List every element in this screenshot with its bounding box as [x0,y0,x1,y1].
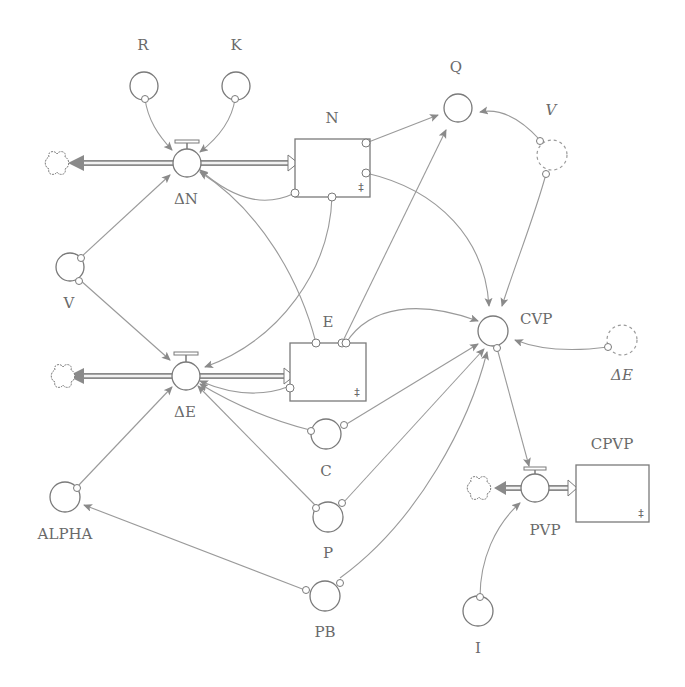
converter-v[interactable]: V [56,253,85,312]
stock-n-label: N [325,109,338,127]
converter-v-label: V [63,294,76,312]
converter-cvp[interactable]: CVP [478,310,552,352]
stock-e-label: E [323,313,334,331]
converter-pb[interactable]: PB [303,580,344,642]
link-pb-alpha [84,505,305,590]
flow-dn-label: ΔN [174,190,198,208]
converter-r[interactable]: R [130,36,158,103]
converter-cvp-label: CVP [520,310,552,328]
flow-de[interactable]: ΔE [172,352,200,421]
ghost-v[interactable]: V [537,101,568,178]
stock-flow-diagram: N ‡ E ‡ CPVP ‡ ΔN ΔE PVP [0,0,685,687]
flow-pvp[interactable]: PVP [521,467,561,539]
link-vghost-cvp [502,174,546,306]
converter-r-label: R [137,36,149,54]
cloud-icon [45,152,69,175]
link-r-dn [145,99,172,150]
stock-n[interactable]: N ‡ [291,109,370,201]
link-alpha-de [77,387,172,487]
ghost-v-label: V [546,101,559,119]
ghost-de[interactable]: ΔE [605,325,638,384]
stock-symbol-icon: ‡ [354,386,360,399]
link-v-dn [80,175,170,258]
link-cvp-pvp [497,348,529,466]
converter-p-label: P [323,544,333,562]
link-n-q [366,115,438,143]
valve-handle-icon [175,140,199,143]
converter-p[interactable]: P [313,500,346,563]
stock-cpvp-label: CPVP [591,435,634,453]
stock-symbol-icon: ‡ [358,181,364,194]
link-p-de [198,386,315,505]
stock-symbol-icon: ‡ [638,507,644,520]
converter-c-label: C [320,462,331,480]
converter-c[interactable]: C [308,419,348,480]
link-i-pvp [480,503,520,597]
link-dEghost-cvp [515,340,608,350]
flow-out-arrowhead [68,155,84,171]
valve-handle-icon [174,352,198,355]
converter-q[interactable]: Q [444,58,472,122]
valve-handle-icon [524,467,546,470]
link-e-cvp [346,309,478,343]
link-vghost-q [480,111,540,140]
link-v-de [80,280,170,360]
stock-e[interactable]: E ‡ [286,313,366,401]
converter-k[interactable]: K [222,36,250,103]
link-n-cvp [366,173,489,306]
link-k-dn [200,99,235,152]
cloud-icon [467,477,491,500]
flow-dn[interactable]: ΔN [173,140,201,208]
flow-de-label: ΔE [174,403,196,421]
ghost-de-label: ΔE [610,366,633,384]
converter-q-label: Q [450,58,462,76]
converter-alpha[interactable]: ALPHA [37,482,93,543]
flow-pvp-label: PVP [529,521,560,539]
converter-i-label: I [475,639,481,657]
converter-i[interactable]: I [463,594,493,658]
converter-k-label: K [230,36,242,54]
flow-out-arrowhead [494,481,506,495]
link-n-dn [200,170,295,200]
converter-alpha-label: ALPHA [37,525,93,543]
stock-cpvp[interactable]: CPVP ‡ [576,435,649,522]
cloud-icon [51,365,75,388]
converter-pb-label: PB [314,623,335,641]
